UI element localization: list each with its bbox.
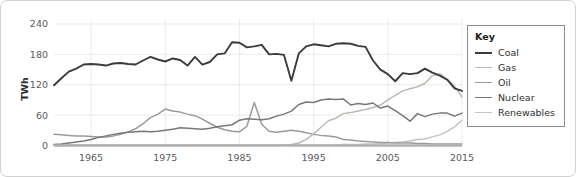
legend-item-nuclear[interactable]: Nuclear <box>475 90 558 105</box>
series-line-coal <box>54 42 462 91</box>
data-series-group <box>54 42 462 145</box>
legend-item-renewables[interactable]: Renewables <box>475 105 558 120</box>
x-tick-label: 1995 <box>302 152 326 163</box>
legend-item-oil[interactable]: Oil <box>475 75 558 90</box>
legend-item-coal[interactable]: Coal <box>475 45 558 60</box>
legend-item-label: Gas <box>498 62 516 74</box>
legend-item-label: Coal <box>498 47 519 59</box>
y-tick-label: 0 <box>42 140 48 151</box>
x-tick-label: 1965 <box>79 152 103 163</box>
gridlines <box>54 19 462 146</box>
legend-item-label: Nuclear <box>498 92 535 104</box>
y-axis-tick-labels: 240180120600 <box>30 18 48 150</box>
legend-swatch-icon <box>475 67 492 68</box>
x-tick-label: 1975 <box>153 152 177 163</box>
y-tick-label: 180 <box>30 49 48 60</box>
y-axis-title: TWh <box>19 77 30 101</box>
legend-items: CoalGasOilNuclearRenewables <box>475 45 558 120</box>
y-tick-label: 240 <box>30 18 48 29</box>
x-tick-label: 1985 <box>227 152 251 163</box>
legend-swatch-icon <box>475 82 492 83</box>
chart-figure: 240180120600 196519751985199520052015 TW… <box>0 0 576 177</box>
legend-swatch-icon <box>475 97 492 98</box>
legend-swatch-icon <box>475 52 492 54</box>
x-axis-tick-labels: 196519751985199520052015 <box>79 152 474 163</box>
legend-title: Key <box>475 31 558 42</box>
x-tick-label: 2005 <box>376 152 400 163</box>
legend-swatch-icon <box>475 112 492 113</box>
series-line-renewables <box>54 120 462 145</box>
legend-item-gas[interactable]: Gas <box>475 60 558 75</box>
legend-item-label: Oil <box>498 77 511 89</box>
y-tick-label: 60 <box>36 110 48 121</box>
legend-item-label: Renewables <box>498 107 555 119</box>
y-tick-label: 120 <box>30 79 48 90</box>
legend: Key CoalGasOilNuclearRenewables <box>467 25 565 127</box>
x-tick-label: 2015 <box>450 152 474 163</box>
series-line-oil <box>54 102 462 143</box>
series-line-nuclear <box>54 99 462 145</box>
